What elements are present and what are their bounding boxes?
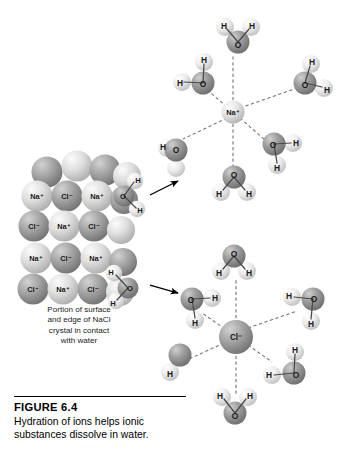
water-molecule: O H H — [181, 288, 222, 330]
water-molecule: H — [161, 344, 192, 382]
nacl-crystal-lattice: Na⁺ Cl⁻ Na⁺ Cl⁻ Na⁺ Cl⁻ Na⁺ — [18, 151, 146, 310]
water-molecule: H H O — [294, 55, 334, 97]
water-molecule: O H H — [212, 245, 256, 281]
sodium-ion: Na⁺ — [222, 101, 245, 124]
water-molecule: H H O — [213, 388, 257, 425]
crystal-caption-line: with water — [18, 336, 140, 346]
molecular-diagram: Na⁺ Cl⁻ Na⁺ Cl⁻ Na⁺ Cl⁻ Na⁺ — [0, 0, 344, 452]
caption-divider-rule — [14, 396, 186, 397]
water-molecule: O H H — [283, 288, 325, 331]
figure-6-4: Na⁺ Cl⁻ Na⁺ Cl⁻ Na⁺ Cl⁻ Na⁺ — [0, 0, 344, 452]
lattice-depth-row — [32, 151, 142, 191]
water-molecule: O H — [158, 139, 188, 178]
crystal-caption-line: crystal in contact — [18, 326, 140, 336]
arrow-to-chloride — [150, 285, 178, 293]
figure-number: FIGURE 6.4 — [14, 401, 186, 413]
figure-caption-text: Hydration of ions helps ionic substances… — [14, 415, 186, 441]
arrow-to-sodium — [150, 181, 178, 195]
process-arrows — [150, 181, 178, 293]
figure-caption-block: FIGURE 6.4 Hydration of ions helps ionic… — [14, 396, 186, 441]
hydrated-sodium-ion: H H O H H O H — [158, 18, 333, 201]
water-molecule: H H O — [173, 53, 215, 95]
water-molecule: O H H — [212, 166, 256, 202]
crystal-caption-line: and edge of NaCl — [18, 315, 140, 325]
crystal-caption-line: Portion of surface — [18, 305, 140, 315]
water-molecule: O H H — [263, 133, 303, 175]
lattice-row: Cl⁻ Na⁺ Cl⁻ — [19, 211, 136, 245]
water-molecule: H H O — [216, 18, 260, 54]
crystal-caption: Portion of surface and edge of NaCl crys… — [18, 305, 140, 347]
water-molecule: H O H — [263, 343, 306, 385]
chloride-ion: Cl⁻ — [219, 320, 253, 354]
